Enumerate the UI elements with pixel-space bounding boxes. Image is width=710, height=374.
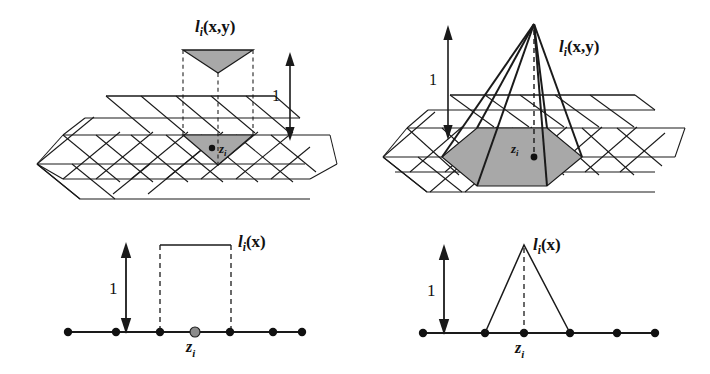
- node-zi-marker-top-left: [209, 145, 215, 151]
- node-zi-marker-top-right: [531, 154, 538, 161]
- height-measure-bottom-left: [121, 242, 131, 334]
- function-label-bottom-left: li(x): [238, 232, 266, 254]
- function-label-top-left: li(x,y): [195, 17, 236, 39]
- height-label-top-left: 1: [272, 87, 280, 104]
- mesh-grid-top-left: [37, 96, 337, 199]
- center-node-zi-bottom-left: [190, 327, 200, 337]
- height-label-bottom-left: 1: [109, 279, 118, 298]
- node-zi-label-bottom-right: zi: [514, 339, 524, 360]
- support-patch-shaded: [442, 128, 582, 186]
- height-label-top-right: 1: [429, 71, 437, 88]
- height-measure-bottom-right: [439, 244, 449, 335]
- panel-bottom-right: 1 zi li(x): [355, 200, 710, 374]
- function-label-top-right: li(x,y): [559, 37, 600, 59]
- panel-top-right: zi 1 li(x,y): [355, 0, 710, 200]
- height-measure-top-right: [443, 25, 452, 140]
- floating-constant-triangle: [183, 50, 253, 73]
- panel-top-left: zi 1 li(x,y): [0, 0, 355, 200]
- height-measure-top-left: [285, 52, 294, 141]
- height-label-bottom-right: 1: [427, 281, 436, 300]
- figure-canvas: zi 1 li(x,y): [0, 0, 710, 374]
- hat-function-outline: [485, 245, 570, 333]
- box-function-dashed-sides: [160, 245, 231, 330]
- node-zi-label-bottom-left: zi: [185, 338, 195, 359]
- panel-bottom-left: 1 zi li(x): [0, 200, 355, 374]
- function-label-bottom-right: li(x): [533, 235, 561, 257]
